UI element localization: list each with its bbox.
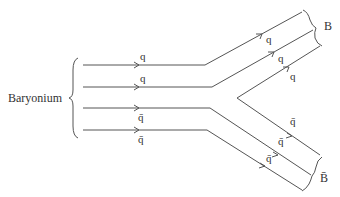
baryon-brace <box>303 10 322 46</box>
label-q-out-2: q <box>278 52 284 64</box>
label-q-out-1: q <box>266 33 272 45</box>
label-qbar-out-2: q̄ <box>278 135 284 147</box>
label-qbar-in-2: q̄ <box>138 133 144 145</box>
label-qbar-out-3: q̄ <box>266 152 272 164</box>
antiquark-line-1 <box>83 108 311 175</box>
label-q-out-3: q <box>290 70 296 82</box>
antibaryon-brace <box>302 157 322 191</box>
label-q-in-2: q <box>140 72 146 84</box>
baryonium-label: Baryonium <box>8 91 63 105</box>
label-qbar-in-1: q̄ <box>138 111 144 123</box>
arrow-pair-antiquark <box>286 133 292 138</box>
label-q-in-1: q <box>140 50 146 62</box>
quark-line-diagram: Baryonium q q q q q q̄ q̄ q̄ q̄ q̄ B B̄ <box>0 0 340 197</box>
label-qbar-out-1: q̄ <box>290 115 296 127</box>
baryonium-brace <box>69 58 78 138</box>
baryon-label: B <box>324 19 332 33</box>
antibaryon-label: B̄ <box>320 171 328 185</box>
